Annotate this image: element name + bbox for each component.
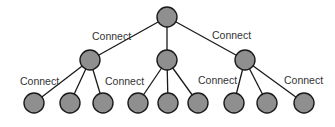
leaf-node-9	[294, 93, 314, 113]
leaf-node-1	[24, 93, 44, 113]
connect-label-5: Connect	[198, 74, 237, 86]
connect-label-4: Connect	[105, 75, 144, 87]
leaf-node-5	[158, 93, 178, 113]
connect-label-2: Connect	[212, 29, 251, 41]
connect-label-1: Connect	[92, 30, 131, 42]
leaf-node-2	[60, 93, 80, 113]
leaf-node-6	[188, 93, 208, 113]
connect-label-6: Connect	[284, 74, 323, 86]
connect-label-3: Connect	[20, 75, 59, 87]
mid-node-2	[157, 50, 177, 70]
mid-node-1	[80, 50, 100, 70]
nodes	[24, 7, 314, 113]
leaf-node-4	[128, 93, 148, 113]
tree-diagram: Connect Connect Connect Connect Connect …	[0, 0, 335, 127]
leaf-node-8	[257, 93, 277, 113]
mid-node-3	[235, 50, 255, 70]
leaf-node-7	[224, 93, 244, 113]
root-node	[157, 7, 177, 27]
leaf-node-3	[93, 93, 113, 113]
